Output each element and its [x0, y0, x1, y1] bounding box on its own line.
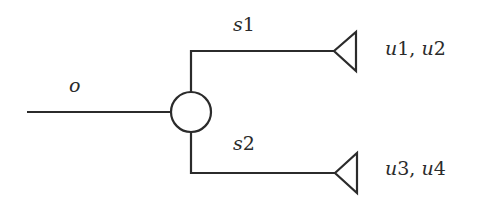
- sink-triangle-top: [334, 32, 356, 71]
- edge-s1: [191, 51, 334, 92]
- junction-node: [171, 92, 211, 132]
- label-s1: s1: [233, 13, 255, 35]
- label-o: o: [69, 74, 80, 96]
- label-users-bottom: u3, u4: [385, 157, 446, 179]
- label-users-top: u1, u2: [385, 37, 446, 59]
- label-s2: s2: [233, 132, 255, 154]
- sink-triangle-bottom: [335, 153, 357, 193]
- edge-s2: [191, 132, 335, 173]
- network-diagram: o s1 s2 u1, u2 u3, u4: [0, 0, 495, 203]
